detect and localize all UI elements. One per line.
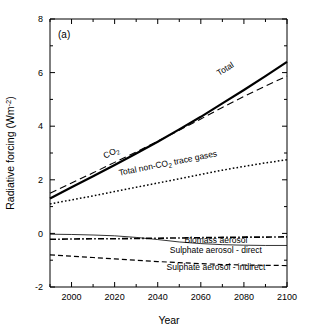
series-label: Biomass aerosol [184,235,247,245]
x-tick-label: 2100 [277,292,297,302]
series-label: Sulphate aerosol - indirect [167,262,266,272]
y-tick-label: 0 [38,229,43,239]
series-label: Sulphate aerosol - direct [170,245,263,255]
chart-canvas: -202468200020202040206020802100 TotalCO2… [0,0,310,331]
panel-label: (a) [58,29,70,40]
y-tick-label: 4 [38,121,43,131]
radiative-forcing-chart: -202468200020202040206020802100 TotalCO2… [0,0,310,331]
y-tick-label: -2 [35,282,43,292]
x-axis-label: Year [158,314,180,326]
y-tick-label: 8 [38,14,43,24]
x-tick-label: 2020 [105,292,125,302]
x-tick-label: 2080 [234,292,254,302]
x-tick-label: 2000 [62,292,82,302]
x-tick-label: 2040 [148,292,168,302]
x-tick-label: 2060 [191,292,211,302]
y-tick-label: 2 [38,175,43,185]
y-tick-label: 6 [38,68,43,78]
y-axis-label: Radiative forcing (Wm-2) [4,96,17,209]
